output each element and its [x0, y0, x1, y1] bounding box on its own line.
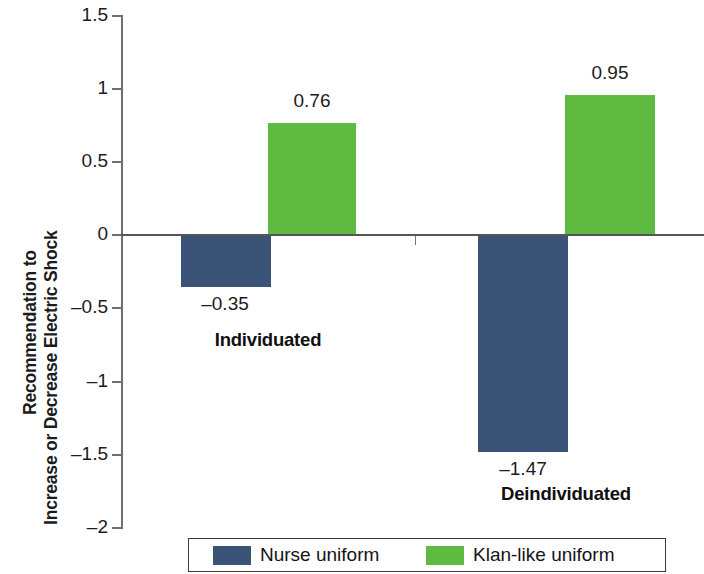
category-separator-tick	[415, 236, 416, 245]
bar-chart: Recommendation to Increase or Decrease E…	[0, 0, 704, 574]
value-label-deindividuated-klan: 0.95	[592, 62, 629, 84]
value-label-individuated-klan: 0.76	[294, 90, 331, 112]
y-tick-label: 1	[8, 77, 108, 99]
zero-baseline	[121, 234, 704, 236]
legend-swatch-blue-icon	[213, 546, 251, 565]
y-tick-mark	[112, 527, 122, 529]
value-label-deindividuated-nurse: –1.47	[499, 458, 547, 480]
legend-item-nurse-uniform: Nurse uniform	[213, 539, 379, 571]
y-tick-label: –1.5	[8, 443, 108, 465]
y-tick-mark	[112, 307, 122, 309]
legend-item-klan-uniform: Klan-like uniform	[426, 539, 615, 571]
bar-deindividuated-klan-uniform	[565, 95, 655, 234]
legend-swatch-green-icon	[426, 546, 464, 565]
legend-label-nurse-uniform: Nurse uniform	[260, 544, 379, 566]
y-tick-label: 0	[8, 223, 108, 245]
y-tick-mark	[112, 15, 122, 17]
category-label-individuated: Individuated	[215, 329, 322, 351]
bar-individuated-klan-uniform	[268, 123, 356, 234]
y-tick-label: –0.5	[8, 296, 108, 318]
y-tick-label: –2	[8, 516, 108, 538]
y-tick-mark	[112, 88, 122, 90]
y-axis-spine	[121, 15, 123, 529]
category-label-deindividuated: Deindividuated	[501, 483, 631, 505]
bar-deindividuated-nurse-uniform	[478, 236, 568, 452]
y-tick-label: –1	[8, 370, 108, 392]
y-tick-mark	[112, 381, 122, 383]
legend: Nurse uniform Klan-like uniform	[188, 538, 666, 572]
y-tick-label: 0.5	[8, 150, 108, 172]
y-tick-mark	[112, 454, 122, 456]
bar-individuated-nurse-uniform	[181, 236, 271, 287]
y-tick-mark	[112, 161, 122, 163]
y-tick-label: 1.5	[8, 4, 108, 26]
value-label-individuated-nurse: –0.35	[201, 293, 249, 315]
legend-label-klan-uniform: Klan-like uniform	[473, 544, 615, 566]
